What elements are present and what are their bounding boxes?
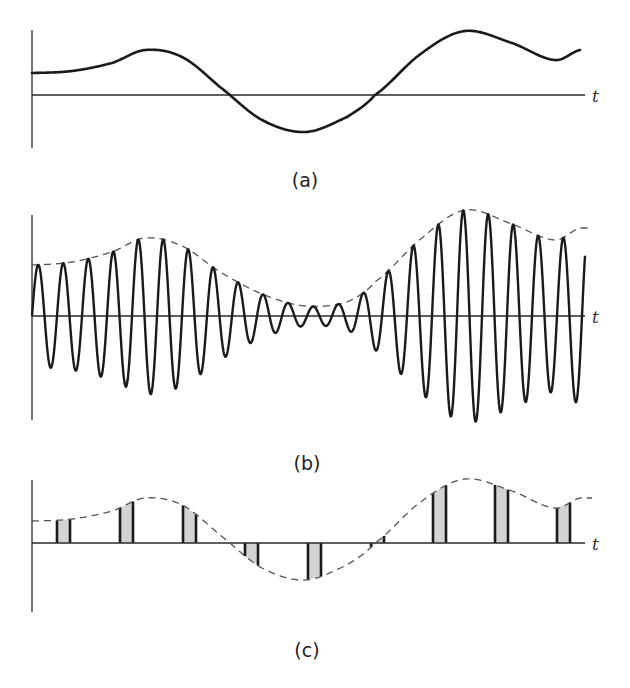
sample-pulse	[495, 485, 508, 543]
message-signal-curve	[32, 31, 580, 132]
sample-pulses	[57, 485, 570, 580]
sample-pulse	[57, 519, 70, 543]
panel-a: t (a)	[32, 30, 599, 191]
panel-label-b: (b)	[294, 452, 321, 474]
panel-label-c: (c)	[294, 639, 319, 661]
panel-c: t (c)	[32, 479, 599, 661]
panel-b: t (b)	[32, 210, 599, 474]
sample-pulse	[308, 543, 321, 580]
modulation-figure: t (a) t (b) t (c)	[0, 0, 630, 688]
sample-pulse	[183, 506, 196, 543]
t-axis-label-a: t	[592, 86, 599, 106]
sample-pulse	[245, 543, 258, 566]
t-axis-label-c: t	[592, 534, 599, 554]
t-axis-label-b: t	[592, 307, 599, 327]
sample-pulse	[120, 501, 133, 543]
sample-pulse	[433, 485, 446, 543]
panel-label-a: (a)	[292, 169, 318, 191]
sample-pulse	[557, 503, 570, 543]
